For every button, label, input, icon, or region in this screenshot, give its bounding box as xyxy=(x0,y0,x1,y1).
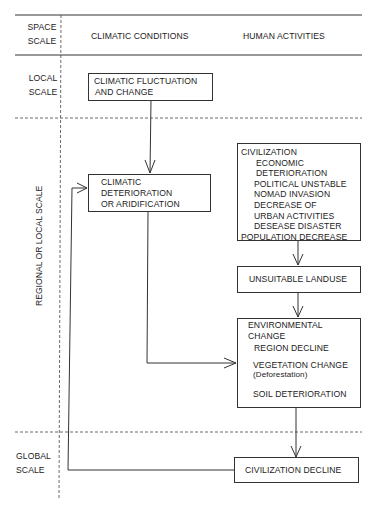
scale-label: SCALE xyxy=(27,36,57,47)
soil-deterioration: SOIL DETERIORATION xyxy=(248,389,350,400)
scale-label: SCALE xyxy=(28,87,58,98)
climatic-deterioration-box: CLIMATIC DETERIORATION OR ARIDIFICATION xyxy=(88,174,211,212)
civilization-item: ECONOMIC xyxy=(241,158,357,169)
box-line: CLIMATIC xyxy=(101,177,198,188)
environmental-change-box: ENVIRONMENTAL CHANGE REGION DECLINE VEGE… xyxy=(237,318,361,408)
civilization-item: DECREASE OF xyxy=(241,200,357,211)
civilization-box: CIVILIZATION ECONOMIC DETERIORATION POLI… xyxy=(237,143,361,241)
global-label: GLOBAL xyxy=(16,451,51,462)
box-line: DETERIORATION xyxy=(101,188,198,199)
box-line: OR ARIDIFICATION xyxy=(101,199,198,210)
climatic-fluctuation-box: CLIMATIC FLUCTUATION AND CHANGE xyxy=(88,73,213,101)
deforestation: (Deforestation) xyxy=(248,370,350,381)
region-decline: REGION DECLINE xyxy=(248,343,350,354)
local-scale-label: LOCAL SCALE xyxy=(28,73,58,98)
civilization-decline-box: CIVILIZATION DECLINE xyxy=(234,457,359,483)
civilization-item: POLITICAL UNSTABLE xyxy=(241,179,357,190)
scale-label: SCALE xyxy=(16,465,51,476)
civilization-item: DETERIORATION xyxy=(241,168,357,179)
civilization-item: POPULATION DECREASE xyxy=(241,232,357,243)
climatic-conditions-heading: CLIMATIC CONDITIONS xyxy=(91,31,189,42)
unsuitable-landuse-box: UNSUITABLE LANDUSE xyxy=(237,266,361,293)
box-line: AND CHANGE xyxy=(94,87,207,98)
civilization-item: DESEASE DISASTER xyxy=(241,221,357,232)
regional-or-local-scale-label: REGIONAL OR LOCAL SCALE xyxy=(34,186,44,306)
civilization-item: NOMAD INVASION xyxy=(241,189,357,200)
space-label: SPACE xyxy=(27,22,57,33)
env-title: ENVIRONMENTAL xyxy=(248,320,350,331)
vegetation-change: VEGETATION CHANGE xyxy=(248,360,350,371)
civilization-item: URBAN ACTIVITIES xyxy=(241,211,357,222)
civilization-title: CIVILIZATION xyxy=(241,147,357,158)
human-activities-heading: HUMAN ACTIVITIES xyxy=(243,31,325,42)
space-scale-label: SPACE SCALE xyxy=(27,22,57,47)
local-label: LOCAL xyxy=(28,73,58,84)
box-line: CLIMATIC FLUCTUATION xyxy=(94,76,207,87)
global-scale-label: GLOBAL SCALE xyxy=(16,451,51,476)
env-title: CHANGE xyxy=(248,331,350,342)
